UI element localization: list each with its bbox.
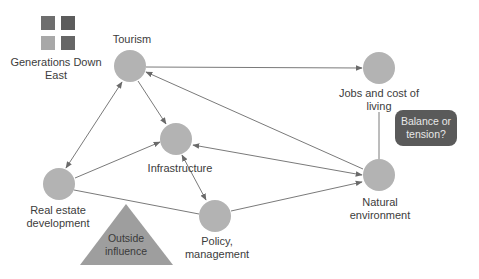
label-policy: Policy, management <box>180 235 254 261</box>
node-infrastructure[interactable] <box>160 123 192 155</box>
callout-line2: tension? <box>401 128 451 141</box>
label-natural-line1: Natural <box>344 196 416 209</box>
label-natural-line2: environment <box>344 209 416 222</box>
label-natural: Natural environment <box>344 196 416 222</box>
edge-infrastructure-natural <box>193 145 362 175</box>
legend-title: Generations Down East <box>4 56 108 82</box>
node-jobs[interactable] <box>363 52 395 84</box>
edge-tourism-realestate <box>66 82 122 168</box>
label-tourism: Tourism <box>108 33 156 46</box>
outside-influence-label: Outside influence <box>98 232 154 258</box>
node-natural[interactable] <box>363 159 395 191</box>
outside-influence-line1: Outside <box>98 232 154 245</box>
edge-policy-natural <box>231 182 362 211</box>
outside-influence-line2: influence <box>98 245 154 258</box>
label-infrastructure: Infrastructure <box>146 162 214 175</box>
legend-square-3 <box>41 36 55 50</box>
label-real-estate-line1: Real estate <box>22 204 94 217</box>
edge-tourism-infrastructure <box>138 81 166 124</box>
label-policy-line2: management <box>180 248 254 261</box>
edge-tourism-jobs <box>146 67 362 68</box>
node-policy[interactable] <box>199 200 231 232</box>
legend-square-1 <box>41 16 55 30</box>
node-tourism[interactable] <box>114 50 146 82</box>
balance-callout: Balance or tension? <box>395 110 457 146</box>
node-real-estate[interactable] <box>43 168 75 200</box>
label-jobs-line1: Jobs and cost of <box>336 87 422 100</box>
label-policy-line1: Policy, <box>180 235 254 248</box>
label-real-estate-line2: development <box>22 217 94 230</box>
callout-line1: Balance or <box>401 115 451 128</box>
legend-square-2 <box>61 16 75 30</box>
label-real-estate: Real estate development <box>22 204 94 230</box>
legend-square-4 <box>61 36 75 50</box>
